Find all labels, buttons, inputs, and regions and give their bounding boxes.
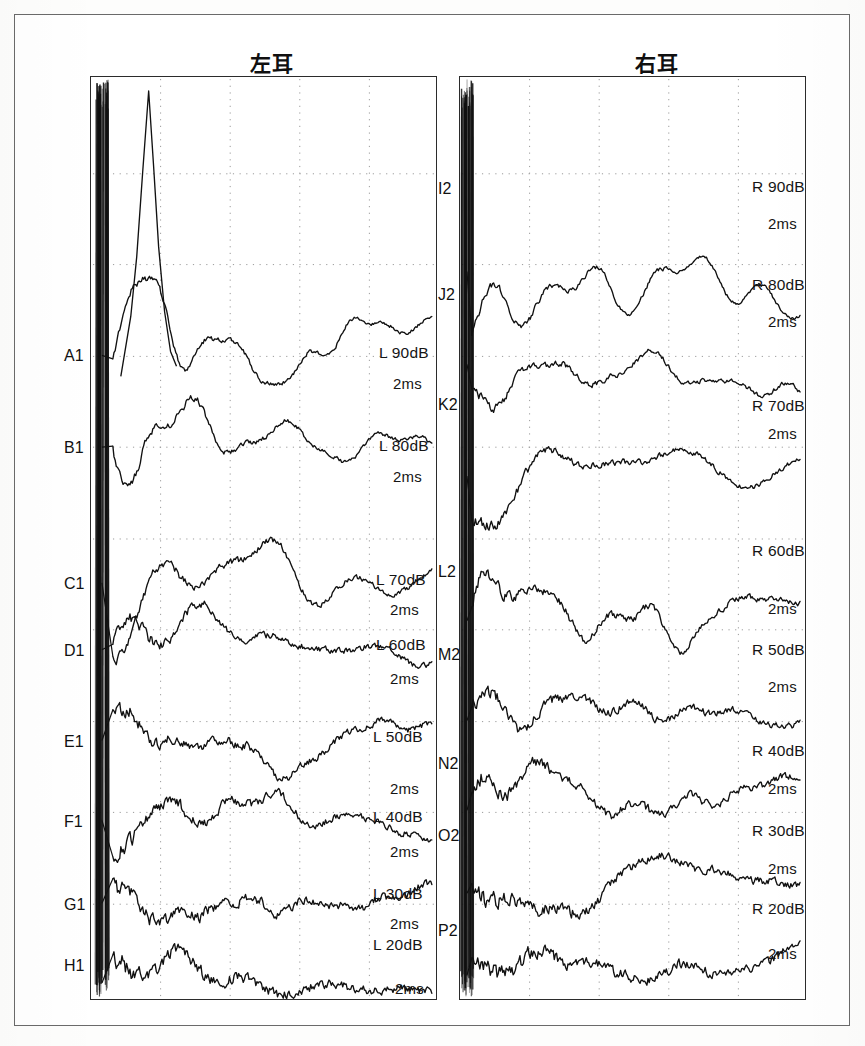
level-label-left-l-90db: L 90dB (379, 344, 429, 362)
level-label-right-r-50db: R 50dB (752, 641, 805, 659)
level-label-right-r-30db: R 30dB (752, 822, 805, 840)
waveform-traces-right (460, 77, 805, 999)
time-label-left-4: 2ms (390, 670, 419, 687)
time-label-left-2: 2ms (393, 468, 422, 485)
trace-id-left-f1: F1 (64, 813, 83, 831)
level-label-right-r-20db: R 20dB (752, 900, 805, 918)
time-label-left-3: 2ms (390, 601, 419, 618)
level-label-left-l-30db: L 30dB (373, 885, 423, 903)
level-label-left-l-70db: L 70dB (376, 571, 426, 589)
time-label-right-5: 2ms (768, 678, 797, 695)
trace-id-right-j2: J2 (438, 286, 455, 304)
panel-title-left-ear: 左耳 (250, 47, 294, 77)
trace-id-right-p2: P2 (438, 922, 458, 940)
trace-id-left-a1: A1 (64, 347, 84, 365)
level-label-right-r-60db: R 60dB (752, 542, 805, 560)
trace-id-left-b1: B1 (64, 439, 84, 457)
level-label-right-r-40db: R 40dB (752, 742, 805, 760)
trace-id-right-i2: I2 (438, 180, 451, 198)
time-label-right-1: 2ms (768, 215, 797, 232)
trace-id-right-l2: L2 (438, 563, 456, 581)
time-label-right-8: 2ms (768, 945, 797, 962)
trace-id-right-n2: N2 (438, 755, 458, 773)
level-label-left-l-20db: L 20dB (373, 936, 423, 954)
time-label-left-8: 2ms (395, 980, 424, 997)
time-label-right-4: 2ms (768, 600, 797, 617)
level-label-right-r-80db: R 80dB (752, 276, 805, 294)
time-label-left-5: 2ms (390, 780, 419, 797)
waveform-panel-left-ear[interactable] (90, 76, 437, 1000)
trace-id-left-c1: C1 (64, 575, 84, 593)
time-label-left-7: 2ms (390, 915, 419, 932)
trace-id-left-e1: E1 (64, 733, 84, 751)
level-label-right-r-90db: R 90dB (752, 178, 805, 196)
time-label-right-2: 2ms (768, 313, 797, 330)
panel-title-right-ear: 右耳 (635, 47, 679, 77)
trace-id-right-m2: M2 (438, 646, 460, 664)
time-label-right-3: 2ms (768, 425, 797, 442)
level-label-right-r-70db: R 70dB (752, 397, 805, 415)
waveform-traces-left (91, 77, 436, 999)
level-label-left-l-50db: L 50dB (373, 728, 423, 746)
level-label-left-l-60db: L 60dB (376, 636, 426, 654)
time-label-right-7: 2ms (768, 860, 797, 877)
time-label-left-1: 2ms (393, 375, 422, 392)
time-label-right-6: 2ms (768, 780, 797, 797)
waveform-panel-right-ear[interactable] (459, 76, 806, 1000)
trace-id-left-d1: D1 (64, 642, 84, 660)
level-label-left-l-40db: L 40dB (373, 808, 423, 826)
level-label-left-l-80db: L 80dB (379, 437, 429, 455)
trace-id-right-o2: O2 (438, 827, 459, 845)
trace-id-left-g1: G1 (64, 896, 85, 914)
trace-id-left-h1: H1 (64, 957, 84, 975)
time-label-left-6: 2ms (390, 843, 419, 860)
trace-id-right-k2: K2 (438, 396, 458, 414)
